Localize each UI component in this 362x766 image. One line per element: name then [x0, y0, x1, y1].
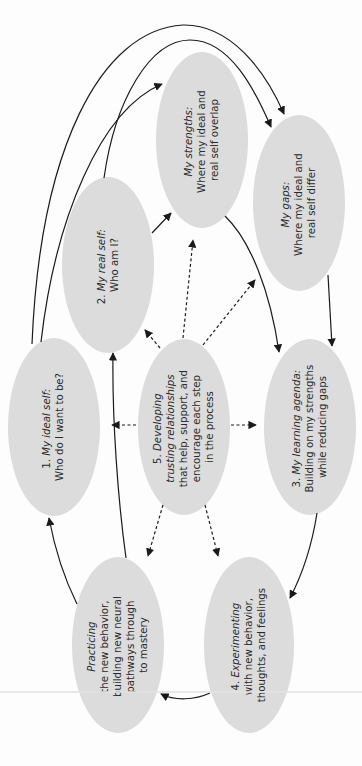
node-relationships: 5. Developing trusting relationships tha… — [138, 339, 230, 515]
dashed-arrow-to-strengths — [183, 240, 193, 338]
node-real-self: 2. My real self: Who am I? — [62, 177, 154, 353]
svg-text:4. Experimenting with ne: 4. Experimenting with new behavior, thou… — [230, 588, 267, 702]
node-learning-agenda: 3. My learning agenda: Building on my st… — [264, 339, 356, 515]
node-gaps: My gaps: Where my ideal and real self di… — [253, 115, 345, 291]
node-experimenting: 4. Experimenting with new behavior, thou… — [204, 557, 294, 733]
arrow-experimenting-to-practicing — [161, 693, 210, 699]
intentional-change-diagram: 1. My ideal self: Who do I want to be? 2… — [0, 0, 362, 766]
dashed-arrow-to-gaps — [203, 280, 255, 345]
scan-line-artifact — [0, 691, 362, 693]
dashed-arrow-to-experimenting — [205, 505, 218, 556]
arrow-gaps-to-agenda — [328, 275, 332, 346]
arrow-practicing-to-real — [113, 353, 126, 558]
node-strengths: My strengths: Where my ideal and real se… — [156, 52, 248, 228]
node-ideal-self: 1. My ideal self: Who do I want to be? — [8, 338, 100, 516]
arrow-agenda-to-experimenting — [290, 513, 317, 598]
arrow-real-to-strengths — [152, 213, 171, 233]
dashed-arrow-to-practicing — [148, 505, 163, 556]
node-practicing: Practicing the new behavior, building ne… — [72, 557, 164, 733]
arrow-practicing-to-ideal — [49, 518, 77, 604]
dashed-arrow-to-real — [145, 330, 160, 348]
svg-text:3. My learning agenda: B: 3. My learning agenda: Building on my st… — [291, 361, 328, 492]
